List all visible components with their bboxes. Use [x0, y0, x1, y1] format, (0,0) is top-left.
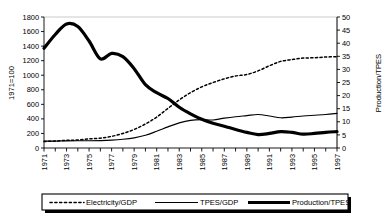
y-axis-left-tick-label: 1400 [23, 42, 39, 51]
y-axis-left-tick-label: 1600 [23, 27, 39, 36]
x-axis: 1971197319751977197919811983198519871989… [40, 148, 342, 170]
chart-container: 020040060080010001200140016001800 051015… [0, 0, 389, 221]
y-axis-right-tick-label: 20 [342, 91, 350, 100]
y-axis-right-tick-label: 30 [342, 65, 350, 74]
x-axis-tick-label: 1989 [243, 154, 252, 170]
chart-svg: 020040060080010001200140016001800 051015… [0, 0, 389, 221]
x-axis-tick-label: 1977 [107, 154, 116, 170]
y-axis-left-tick-label: 800 [27, 85, 39, 94]
y-axis-left-tick-label: 200 [27, 129, 39, 138]
series-electricity-gdp [44, 57, 337, 142]
chart-screenshot: 020040060080010001200140016001800 051015… [0, 0, 389, 221]
y-axis-right-tick-label: 35 [342, 52, 350, 61]
y-axis-right-tick-label: 40 [342, 39, 350, 48]
x-axis-tick-label: 1979 [130, 154, 139, 170]
y-axis-left-tick-label: 600 [27, 100, 39, 109]
x-axis-tick-label: 1981 [152, 154, 161, 170]
legend-label-tpes-gdp: TPES/GDP [200, 198, 238, 207]
y-axis-left-title: 1971=100 [7, 66, 16, 100]
x-axis-tick-label: 1987 [220, 154, 229, 170]
y-axis-left-tick-label: 400 [27, 114, 39, 123]
legend-label-production-tpes: Production/TPES [292, 198, 350, 207]
y-axis-right-tick-label: 5 [342, 131, 346, 140]
x-axis-tick-label: 1973 [62, 154, 71, 170]
legend: Electricity/GDP TPES/GDP Production/TPES [42, 194, 351, 213]
y-axis-right-tick-label: 15 [342, 104, 350, 113]
y-axis-right: 05101520253035404550 [337, 13, 350, 153]
y-axis-left: 020040060080010001200140016001800 [23, 13, 44, 153]
y-axis-right-title: Production/TPES [374, 54, 383, 112]
y-axis-right-tick-label: 0 [342, 144, 346, 153]
y-axis-left-tick-label: 0 [35, 144, 39, 153]
y-axis-left-tick-label: 1000 [23, 71, 39, 80]
series-production-tpes [44, 23, 337, 134]
x-axis-tick-label: 1993 [288, 154, 297, 170]
y-axis-right-tick-label: 25 [342, 78, 350, 87]
x-axis-tick-label: 1971 [40, 154, 49, 170]
x-axis-tick-label: 1983 [175, 154, 184, 170]
y-axis-left-tick-label: 1200 [23, 56, 39, 65]
x-axis-tick-label: 1997 [333, 154, 342, 170]
y-axis-right-tick-label: 45 [342, 26, 350, 35]
y-axis-right-tick-label: 50 [342, 13, 350, 22]
y-axis-left-tick-label: 1800 [23, 13, 39, 22]
y-axis-right-tick-label: 10 [342, 117, 350, 126]
series-tpes-gdp [44, 113, 337, 141]
x-axis-tick-label: 1985 [198, 154, 207, 170]
x-axis-tick-label: 1991 [265, 154, 274, 170]
legend-label-electricity-gdp: Electricity/GDP [86, 198, 137, 207]
x-axis-tick-label: 1995 [310, 154, 319, 170]
x-axis-tick-label: 1975 [85, 154, 94, 170]
